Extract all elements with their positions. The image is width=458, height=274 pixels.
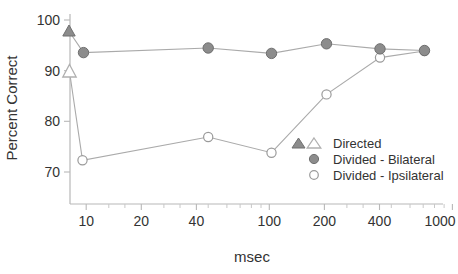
series-line-divided-bilateral [69,31,425,53]
y-tick-label-70: 70 [44,164,60,180]
legend-marker-triangle-open [307,138,321,148]
data-point-bilat-50 [203,43,213,53]
data-point-bilat-10 [78,47,88,57]
chart-legend: Directed Divided - Bilateral Divided - I… [292,136,444,183]
legend-marker-circle-open [310,171,319,180]
data-point-ipsi-10 [78,156,87,165]
data-point-ipsi-50 [204,132,213,141]
x-axis-title: msec [234,248,270,265]
legend-label-directed: Directed [333,136,381,151]
chart-canvas: 100 90 80 70 Percent Correct [0,0,458,274]
x-axis: 10 20 40 100 200 400 1000 msec [70,204,456,265]
x-tick-label-1000: 1000 [424,213,455,229]
x-tick-label-200: 200 [313,213,337,229]
legend-label-divided-bilateral: Divided - Bilateral [333,152,435,167]
legend-marker-triangle-filled [292,138,305,148]
y-axis: 100 90 80 70 Percent Correct [3,12,70,204]
y-tick-label-90: 90 [44,63,60,79]
chart-figure: 100 90 80 70 Percent Correct [0,0,458,274]
x-tick-label-40: 40 [189,213,205,229]
data-point-directed-filled [63,25,75,36]
y-tick-label-80: 80 [44,113,60,129]
legend-label-divided-ipsilateral: Divided - Ipsilateral [333,168,444,183]
data-point-bilat-750 [419,45,429,55]
data-point-ipsi-100 [267,148,276,157]
data-point-bilat-100 [266,48,276,58]
series-divided-bilateral [69,31,430,58]
x-tick-label-10: 10 [78,213,94,229]
x-tick-label-400: 400 [368,213,392,229]
data-point-bilat-400 [375,44,385,54]
x-tick-label-100: 100 [258,213,282,229]
x-tick-label-20: 20 [134,213,150,229]
data-point-ipsi-200 [322,90,331,99]
y-axis-title: Percent Correct [3,55,20,161]
data-point-bilat-200 [321,39,331,49]
y-tick-label-100: 100 [37,12,61,28]
legend-marker-circle-filled [309,154,318,163]
